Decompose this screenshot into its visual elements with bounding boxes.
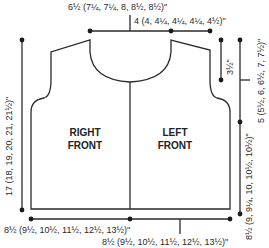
side-length-label: 8½ (9, 9¼, 10, 10½, 10½)" bbox=[244, 133, 254, 240]
right-front-line2: FRONT bbox=[55, 139, 115, 152]
left-front-title: LEFT FRONT bbox=[145, 126, 205, 152]
armhole-depth-label: 5 (5½, 6, 6½, 7, 7½)" bbox=[256, 39, 266, 123]
left-front-line2: FRONT bbox=[145, 139, 205, 152]
right-front-line1: RIGHT bbox=[55, 126, 115, 139]
top-width-label: 6½ (7¼, 7¼, 8, 8½, 8½)" bbox=[68, 2, 167, 12]
right-front-title: RIGHT FRONT bbox=[55, 126, 115, 152]
left-front-line1: LEFT bbox=[145, 126, 205, 139]
schematic-drawing bbox=[0, 0, 269, 248]
total-length-label: 17 (18, 19, 20, 21, 21½)" bbox=[4, 97, 14, 196]
bottom-left-front-label: 8½ (9½, 10½, 11½, 12½, 13½)" bbox=[102, 237, 228, 247]
shoulder-label: 4 (4, 4¼, 4¼, 4¼, 4½)" bbox=[134, 16, 226, 26]
bottom-right-front-label: 8½ (9½, 10½, 11½, 12½, 13½)" bbox=[4, 225, 130, 235]
armhole-shaping-label: 3½" bbox=[225, 59, 235, 75]
